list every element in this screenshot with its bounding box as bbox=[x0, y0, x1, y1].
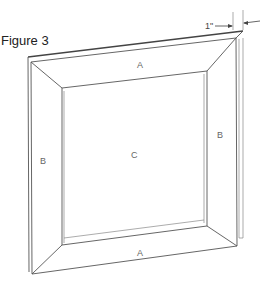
label-center-panel: C bbox=[131, 150, 138, 160]
label-top-rail: A bbox=[137, 60, 143, 70]
label-left-stile: B bbox=[40, 156, 46, 166]
arrow-left-icon bbox=[243, 21, 248, 25]
arrow-right-icon bbox=[228, 24, 233, 28]
frame-outer-top-edge bbox=[28, 31, 243, 62]
frame-outer-left-edge bbox=[28, 57, 32, 274]
frame-diagram: 1" A B C B A bbox=[0, 0, 272, 285]
label-bottom-rail: A bbox=[137, 248, 143, 258]
label-right-stile: B bbox=[217, 130, 223, 140]
back-panel-edge bbox=[239, 38, 243, 238]
dimension-annotation: 1" bbox=[205, 10, 260, 31]
frame-outer-bottom-edge bbox=[32, 246, 237, 274]
frame-outer-right-edge bbox=[236, 31, 243, 246]
dimension-label: 1" bbox=[205, 21, 213, 31]
